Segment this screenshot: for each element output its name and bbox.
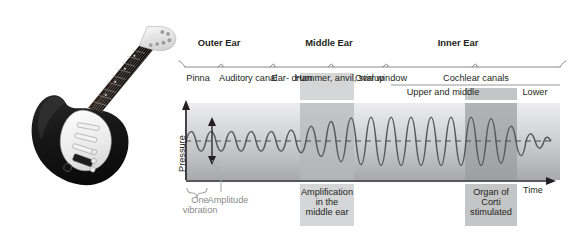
- group-label-outer-ear: Outer Ear: [183, 38, 255, 48]
- group-label-cochlear-canals: Cochlear canals: [393, 74, 559, 84]
- part-label-auditory-canal-line1: Auditory canal: [219, 73, 277, 83]
- part-label-pinna: Pinna: [175, 74, 221, 84]
- part-label-hammer-anvil-stirrup: Hammer, anvil, stirrup: [295, 74, 359, 84]
- group-label-inner-ear: Inner Ear: [403, 38, 513, 48]
- electric-guitar-photo: [0, 0, 180, 245]
- callout-one-vibration-line2: vibration: [171, 206, 229, 216]
- x-axis-label: Time: [523, 186, 543, 196]
- part-label-upper-and-middle: Upper and middle: [385, 88, 501, 98]
- part-label-auditory-canal: Auditory canal: [219, 74, 273, 84]
- caption-amplification-line3: middle ear: [287, 208, 367, 218]
- guitar-illustration: [0, 0, 180, 245]
- guitar-neck: [88, 36, 153, 122]
- header-rule: [179, 61, 566, 67]
- ear-sound-wave-diagram: Outer Ear Middle Ear Inner Ear Pinna Aud…: [155, 0, 580, 245]
- group-label-middle-ear: Middle Ear: [293, 38, 365, 48]
- caption-organ-line3: stimulated: [460, 208, 522, 218]
- part-label-lower: Lower: [511, 88, 559, 98]
- callout-amplitude: Amplitude: [195, 196, 261, 206]
- y-axis-label: Pressure: [177, 135, 187, 172]
- figure-root: Outer Ear Middle Ear Inner Ear Pinna Aud…: [0, 0, 580, 245]
- caption-organ-of-corti: Organ of Corti stimulated: [460, 188, 522, 218]
- caption-amplification-middle-ear: Amplification in the middle ear: [287, 188, 367, 218]
